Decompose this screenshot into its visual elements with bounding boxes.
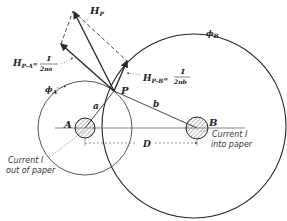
parallelogram-right — [73, 11, 127, 61]
label-point-b: B — [208, 117, 217, 128]
caption-current-b-1: Current I — [212, 130, 248, 139]
parallelogram-left — [61, 11, 73, 44]
caption-current-a-1: Current I — [8, 156, 44, 165]
label-hpa-num: I — [46, 53, 51, 63]
label-phi-a: ϕA — [45, 84, 58, 95]
vector-h-p — [74, 12, 114, 91]
label-hpa-den: 2πa — [39, 65, 53, 72]
label-dist-d: D — [142, 139, 151, 149]
leader-hp — [82, 17, 90, 26]
leader-hpb — [127, 73, 140, 75]
radius-a — [85, 91, 114, 128]
caption-current-a-2: out of paper — [6, 166, 56, 175]
label-hpb: HP-B= — [142, 73, 168, 84]
label-dist-a: a — [93, 101, 99, 111]
label-point-p: P — [120, 85, 129, 96]
label-point-a: A — [63, 119, 72, 130]
caption-current-b-2: into paper — [211, 140, 253, 149]
label-hpb-den: 2πb — [173, 78, 187, 85]
radius-b — [114, 91, 197, 128]
leader-hpa — [61, 58, 73, 64]
label-hpa: HP-A= — [12, 58, 38, 69]
magnetic-field-diagram: HP HP-A= I 2πa HP-B= I 2πb ϕA ϕB P A B a… — [0, 0, 287, 221]
label-phi-b: ϕB — [206, 28, 219, 39]
label-hpb-num: I — [180, 66, 185, 76]
label-hp: HP — [89, 5, 104, 17]
label-dist-b: b — [153, 99, 159, 109]
